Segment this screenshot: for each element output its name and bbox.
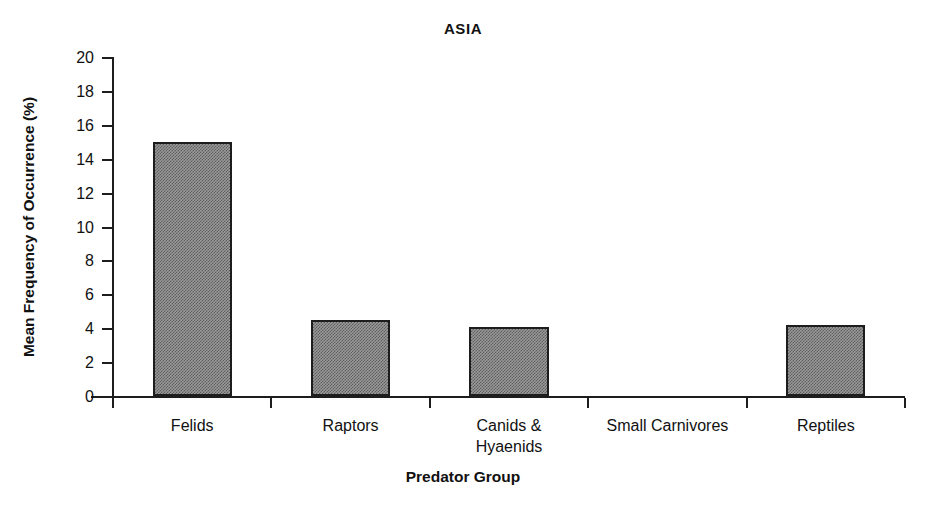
y-axis-tick: 14 [102, 159, 113, 161]
bar [786, 325, 865, 396]
y-axis-tick-label: 8 [85, 252, 94, 270]
bar [469, 327, 548, 396]
y-axis-tick: 12 [102, 193, 113, 195]
x-axis-tick [587, 398, 589, 408]
y-axis-tick-label: 12 [76, 185, 94, 203]
x-axis-line [91, 396, 905, 398]
y-axis-tick: 16 [102, 125, 113, 127]
y-axis-tick-label: 4 [85, 320, 94, 338]
y-axis-tick-label: 20 [76, 49, 94, 67]
y-axis-tick: 4 [102, 328, 113, 330]
x-axis-tick [429, 398, 431, 408]
y-axis-tick-label: 16 [76, 117, 94, 135]
x-axis-tick [112, 398, 114, 408]
y-axis-tick: 10 [102, 227, 113, 229]
y-axis-tick-label: 14 [76, 151, 94, 169]
category-label: Reptiles [707, 415, 926, 436]
y-axis-tick-label: 2 [85, 354, 94, 372]
y-axis-tick: 6 [102, 294, 113, 296]
y-axis-tick: 8 [102, 260, 113, 262]
x-axis-label: Predator Group [0, 468, 926, 486]
bar [153, 142, 232, 396]
category-label-line: Hyaenids [390, 436, 628, 457]
y-axis-tick: 2 [102, 362, 113, 364]
bar [311, 320, 390, 396]
y-axis-tick: 18 [102, 91, 113, 93]
y-axis-tick-label: 0 [85, 388, 94, 406]
x-axis-tick [904, 398, 906, 408]
plot-area: 20181614121086420 FelidsRaptorsCanids &H… [113, 57, 905, 396]
chart-title: ASIA [0, 20, 926, 37]
y-axis-label: Mean Frequency of Occurrence (%) [20, 96, 38, 356]
x-axis-tick [746, 398, 748, 408]
y-axis-tick-label: 18 [76, 83, 94, 101]
x-axis-tick [270, 398, 272, 408]
y-axis-label-container: Mean Frequency of Occurrence (%) [14, 57, 44, 396]
bar-chart-figure: ASIA Mean Frequency of Occurrence (%) 20… [0, 0, 926, 516]
y-axis-tick: 20 [102, 57, 113, 59]
y-axis-tick-label: 10 [76, 219, 94, 237]
y-axis-tick-label: 6 [85, 286, 94, 304]
category-label-line: Reptiles [707, 415, 926, 436]
